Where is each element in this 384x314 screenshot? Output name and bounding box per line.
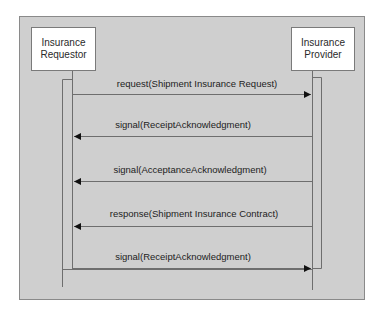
- provider-activation-bar: [313, 78, 322, 269]
- message-label-2: signal(ReceiptAcknowledgment): [115, 119, 251, 130]
- message-label-1: request(Shipment Insurance Request): [117, 78, 278, 89]
- message-label-3: signal(AcceptanceAcknowledgment): [113, 164, 266, 175]
- message-label-4: response(Shipment Insurance Contract): [110, 208, 278, 219]
- message-label-5: signal(ReceiptAcknowledgment): [115, 251, 251, 262]
- requestor-activation-bar: [63, 80, 73, 288]
- sequence-lines: [0, 0, 384, 314]
